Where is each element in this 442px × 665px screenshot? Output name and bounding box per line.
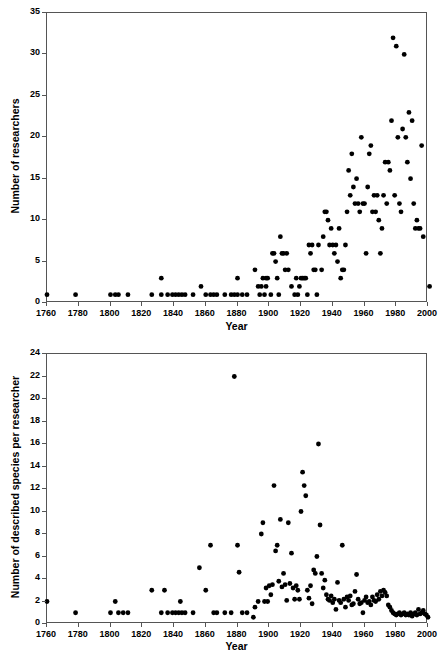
y-tick-label: 10 (12, 506, 40, 515)
scatter-point (149, 588, 154, 593)
panel-b: b Number of described species per resear… (0, 340, 442, 665)
x-tick-mark (364, 302, 365, 306)
scatter-point (126, 292, 131, 297)
scatter-point (297, 284, 302, 289)
scatter-point (275, 276, 280, 281)
scatter-point (349, 151, 354, 156)
scatter-point (222, 610, 227, 615)
scatter-point (235, 276, 240, 281)
scatter-point (364, 595, 369, 600)
scatter-point (426, 615, 431, 620)
y-tick-mark (42, 178, 46, 179)
scatter-point (259, 532, 264, 537)
scatter-point (276, 292, 281, 297)
scatter-point (199, 284, 204, 289)
scatter-point (289, 284, 294, 289)
scatter-point (343, 605, 348, 610)
y-tick-label: 20 (12, 393, 40, 402)
scatter-point (272, 483, 277, 488)
scatter-point (381, 193, 386, 198)
scatter-point (203, 588, 208, 593)
scatter-point (289, 551, 294, 556)
scatter-point (326, 218, 331, 223)
scatter-point (346, 168, 351, 173)
scatter-point (319, 571, 324, 576)
y-tick-mark (42, 578, 46, 579)
y-tick-mark (42, 398, 46, 399)
y-tick-mark (42, 261, 46, 262)
scatter-point (337, 226, 342, 231)
scatter-point (414, 218, 419, 223)
scatter-point (275, 543, 280, 548)
y-tick-label: 35 (12, 7, 40, 16)
x-tick-mark (395, 623, 396, 627)
scatter-point (287, 581, 292, 586)
y-tick-label: 4 (12, 573, 40, 582)
x-tick-mark (427, 302, 428, 306)
scatter-point (116, 292, 121, 297)
scatter-point (403, 135, 408, 140)
scatter-point (316, 243, 321, 248)
scatter-point (346, 598, 351, 603)
scatter-point (308, 583, 313, 588)
scatter-point (286, 267, 291, 272)
scatter-point (338, 276, 343, 281)
scatter-point (302, 483, 307, 488)
scatter-point (324, 209, 329, 214)
scatter-point (159, 292, 164, 297)
scatter-point (354, 572, 359, 577)
scatter-point (183, 292, 188, 297)
x-tick-mark (268, 623, 269, 627)
y-tick-mark (42, 12, 46, 13)
scatter-point (165, 292, 170, 297)
scatter-point (257, 292, 262, 297)
scatter-point (310, 601, 315, 606)
scatter-point (341, 267, 346, 272)
y-tick-mark (42, 466, 46, 467)
scatter-point (359, 135, 364, 140)
scatter-point (294, 276, 299, 281)
scatter-point (203, 292, 208, 297)
y-tick-mark (42, 136, 46, 137)
scatter-point (397, 201, 402, 206)
x-tick-mark (364, 623, 365, 627)
scatter-point (375, 193, 380, 198)
scatter-point (394, 44, 399, 49)
scatter-point (303, 276, 308, 281)
y-tick-mark (42, 488, 46, 489)
scatter-point (340, 543, 345, 548)
scatter-point (361, 610, 366, 615)
x-tick-mark (173, 302, 174, 306)
x-tick-mark (268, 302, 269, 306)
scatter-point (388, 168, 393, 173)
scatter-point (348, 593, 353, 598)
scatter-point (121, 610, 126, 615)
scatter-point (322, 578, 327, 583)
y-tick-label: 18 (12, 416, 40, 425)
x-tick-mark (205, 623, 206, 627)
scatter-point (178, 599, 183, 604)
scatter-point (345, 209, 350, 214)
scatter-point (389, 118, 394, 123)
scatter-point (159, 276, 164, 281)
scatter-point (362, 201, 367, 206)
x-tick-mark (300, 302, 301, 306)
scatter-point (319, 267, 324, 272)
scatter-point (73, 292, 78, 297)
scatter-point (256, 599, 261, 604)
scatter-point (384, 593, 389, 598)
scatter-point (334, 607, 339, 612)
y-tick-mark (42, 443, 46, 444)
y-tick-mark (42, 53, 46, 54)
scatter-point (421, 234, 426, 239)
scatter-point (292, 597, 297, 602)
scatter-point (232, 374, 237, 379)
scatter-point (386, 160, 391, 165)
scatter-point (357, 209, 362, 214)
x-tick-mark (237, 302, 238, 306)
panel-a-y-axis-title: Number of researchers (9, 46, 21, 266)
scatter-point (303, 493, 308, 498)
scatter-point (261, 520, 266, 525)
scatter-point (305, 292, 310, 297)
scatter-point (191, 292, 196, 297)
